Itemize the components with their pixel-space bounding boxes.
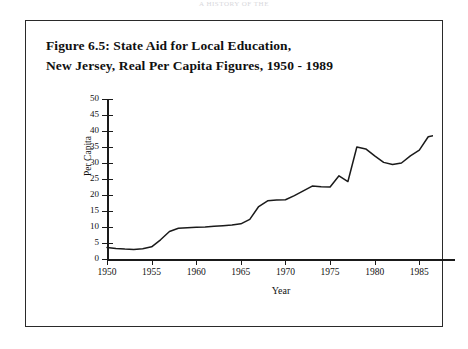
plot-area: Per Capita Year 051015202530354045501950… [83, 99, 433, 289]
figure-title: Figure 6.5: State Aid for Local Educatio… [46, 36, 416, 76]
figure-title-line-1: Figure 6.5: State Aid for Local Educatio… [46, 36, 416, 56]
figure-frame: Figure 6.5: State Aid for Local Educatio… [25, 20, 443, 327]
running-head: A HISTORY OF THE [0, 0, 468, 12]
series-line-chart [83, 99, 433, 289]
figure-title-line-2: New Jersey, Real Per Capita Figures, 195… [46, 56, 416, 76]
data-series-line [107, 118, 433, 250]
